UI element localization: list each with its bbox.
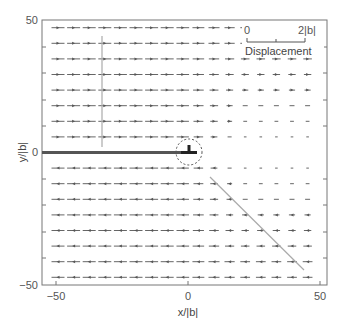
arrow-head-icon [244,89,247,92]
arrow-head-icon [88,135,91,138]
arrow-head-icon [197,120,200,123]
arrow-head-icon [119,229,122,232]
arrow-head-icon [103,229,106,232]
arrow-head-icon [57,26,60,29]
arrow-head-icon [275,57,278,60]
scale-caption: Displacement [245,45,312,57]
arrow-head-icon [88,120,91,123]
arrow-head-icon [244,245,247,248]
arrow-head-icon [57,167,60,170]
arrow-head-icon [135,135,138,138]
arrow-head-icon [119,167,122,170]
arrow-head-icon [275,73,278,76]
arrow-head-icon [166,213,169,216]
arrow-head-icon [150,213,153,216]
arrow-head-icon [244,73,247,76]
arrow-head-icon [88,89,91,92]
arrow-head-icon [88,198,91,201]
arrow-head-icon [88,73,91,76]
arrow-head-icon [306,276,309,279]
arrow-head-icon [181,276,184,279]
arrow-head-icon [150,167,153,170]
arrow-head-icon [244,276,247,279]
arrow-head-icon [259,57,262,60]
arrow-head-icon [150,120,153,123]
arrow-head-icon [166,198,169,201]
arrow-head-icon [181,167,184,170]
arrow-head-icon [213,213,216,216]
arrow-head-icon [228,245,231,248]
arrow-head-icon [213,260,216,263]
arrow-head-icon [166,89,169,92]
arrow-head-icon [88,229,91,232]
arrow-head-icon [72,104,75,107]
arrow-head-icon [197,260,200,263]
arrow-head-icon [213,42,216,45]
arrow-head-icon [88,182,91,185]
arrow-head-icon [275,213,278,216]
arrow-head-icon [88,167,91,170]
arrow-head-icon [197,104,200,107]
arrow-head-icon [103,57,106,60]
arrow-head-icon [228,26,231,29]
arrow-head-icon [166,135,169,138]
arrow-head-icon [181,57,184,60]
y-tick-50: 50 [26,14,38,26]
arrow-head-icon [72,120,75,123]
arrow-head-icon [103,260,106,263]
arrow-head-icon [72,245,75,248]
arrow-head-icon [197,229,200,232]
arrow-head-icon [306,213,309,216]
arrow-head-icon [88,260,91,263]
arrow-head-icon [228,104,231,107]
arrow-head-icon [275,229,278,232]
arrow-head-icon [181,182,184,185]
x-tick-neg50: −50 [47,290,66,302]
arrow-head-icon [291,229,294,232]
arrow-head-icon [213,26,216,29]
arrow-head-icon [135,276,138,279]
arrow-head-icon [103,89,106,92]
arrow-head-icon [228,260,231,263]
arrow-head-icon [275,245,278,248]
arrow-head-icon [119,89,122,92]
arrow-head-icon [135,245,138,248]
arrow-head-icon [181,229,184,232]
arrow-head-icon [119,26,122,29]
arrow-head-icon [181,89,184,92]
arrow-head-icon [119,104,122,107]
arrow-head-icon [259,260,262,263]
arrow-head-icon [103,26,106,29]
arrow-head-icon [197,167,200,170]
arrow-head-icon [197,198,200,201]
arrow-head-icon [244,260,247,263]
arrow-head-icon [228,229,231,232]
arrow-head-icon [181,120,184,123]
arrow-head-icon [306,229,309,232]
arrow-head-icon [213,229,216,232]
arrow-head-icon [103,42,106,45]
arrow-head-icon [306,260,309,263]
arrow-head-icon [306,245,309,248]
arrow-head-icon [150,104,153,107]
arrow-head-icon [57,42,60,45]
arrow-head-icon [150,276,153,279]
arrow-head-icon [119,182,122,185]
arrow-head-icon [291,276,294,279]
arrow-head-icon [213,89,216,92]
arrow-head-icon [181,245,184,248]
arrow-head-icon [213,120,216,123]
arrow-head-icon [72,260,75,263]
x-axis-label: x/|b| [178,306,198,318]
arrow-head-icon [135,182,138,185]
arrow-head-icon [213,167,216,170]
arrow-head-icon [291,213,294,216]
arrow-head-icon [119,42,122,45]
arrow-head-icon [57,198,60,201]
arrow-head-icon [291,73,294,76]
arrow-head-icon [119,213,122,216]
arrow-head-icon [181,135,184,138]
arrow-head-icon [135,89,138,92]
arrow-head-icon [197,135,200,138]
arrow-head-icon [119,198,122,201]
